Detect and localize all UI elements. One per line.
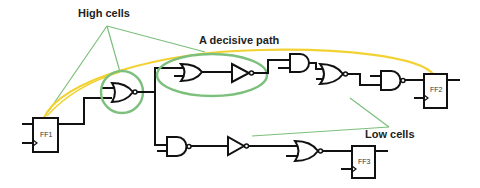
or-gate-high-2	[174, 64, 232, 81]
nor-gate-high-5	[320, 64, 348, 84]
low-cells-label: Low cells	[365, 128, 415, 140]
not-gate-high-3	[232, 64, 254, 82]
nand-gate-low-1	[167, 137, 191, 156]
not-gate-low-2	[228, 137, 249, 155]
and-gate-high-4	[290, 54, 309, 72]
ff3-label: FF3	[358, 158, 370, 165]
nor-gate-low-3	[295, 141, 323, 161]
nor-gate-high-1	[102, 83, 137, 102]
ff1-label: FF1	[40, 131, 52, 138]
ff2-label: FF2	[430, 86, 442, 93]
high-cells-label: High cells	[78, 7, 130, 19]
nand-gate-high-6	[381, 71, 405, 90]
circuit-diagram	[0, 0, 480, 188]
decisive-path-label: A decisive path	[199, 34, 279, 46]
